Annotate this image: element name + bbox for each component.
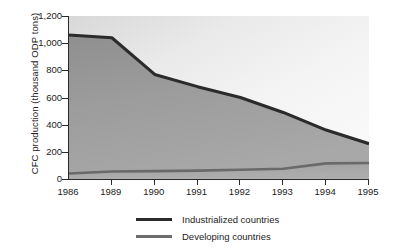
y-axis-tick-label: 1,000 [30,38,62,48]
x-axis-tick-label: 1991 [175,187,219,197]
plot-area [68,16,369,180]
y-axis-tick-label: 1,200 [30,11,62,21]
y-axis-tick-mark [62,125,68,126]
y-axis-tick-mark [62,152,68,153]
x-axis-tick-label: 1994 [303,187,347,197]
x-axis-tick-mark [282,179,283,185]
legend-swatch-developing-icon [136,235,172,238]
legend-label-developing: Developing countries [182,231,271,242]
y-axis-tick-mark [62,70,68,71]
area-industrialized-countries [69,35,369,179]
y-axis-tick-label: 600 [30,93,62,103]
y-axis-tick-mark [62,179,68,180]
y-axis-tick-label: 400 [30,120,62,130]
y-axis-tick-label: 800 [30,65,62,75]
chart-figure: CFC production (thousand ODP tons) 1,200… [0,0,393,252]
x-axis-tick-mark [111,179,112,185]
x-axis-tick-label: 1995 [346,187,390,197]
x-axis-tick-label: 1993 [260,187,304,197]
x-axis-tick-label: 1986 [46,187,90,197]
y-axis-tick-mark [62,98,68,99]
x-axis-tick-mark [197,179,198,185]
y-axis-tick-mark [62,43,68,44]
x-axis-tick-mark [368,179,369,185]
x-axis-tick-mark [154,179,155,185]
chart-legend: Industrialized countries Developing coun… [136,211,366,245]
x-axis-tick-label: 1992 [217,187,261,197]
legend-swatch-industrialized-icon [136,218,172,221]
y-axis-tick-labels: 1,2001,0008006004002000 [28,0,62,252]
y-axis-tick-mark [62,16,68,17]
legend-label-industrialized: Industrialized countries [182,214,279,225]
chart-plot-svg [69,16,369,179]
legend-item-developing: Developing countries [136,228,366,245]
x-axis-tick-label: 1989 [89,187,133,197]
legend-item-industrialized: Industrialized countries [136,211,366,228]
y-axis-tick-label: 200 [30,147,62,157]
x-axis-tick-mark [239,179,240,185]
x-axis-tick-label: 1990 [132,187,176,197]
x-axis-tick-mark [325,179,326,185]
y-axis-tick-label: 0 [30,174,62,184]
